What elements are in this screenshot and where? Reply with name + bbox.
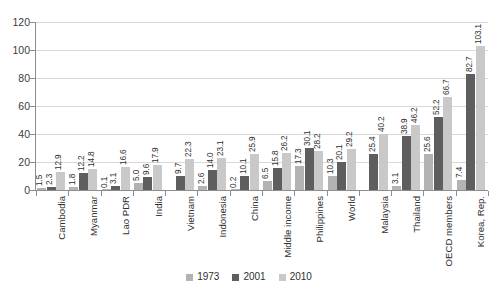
x-axis-category-label: Philippines (315, 196, 325, 242)
bar (134, 183, 143, 190)
bar-group: 0.210.125.9 (230, 22, 262, 190)
data-label: 40.2 (378, 116, 386, 132)
bar (314, 151, 323, 190)
bar (273, 168, 282, 190)
data-label: 103.1 (475, 24, 483, 44)
data-label: 10.3 (327, 158, 335, 174)
data-label: 7.4 (456, 167, 464, 178)
bar (443, 97, 452, 190)
bar-group: 6.515.826.2 (262, 22, 294, 190)
bar (88, 169, 97, 190)
data-label: 38.9 (401, 118, 409, 134)
data-label: 15.8 (272, 150, 280, 166)
bar (56, 172, 65, 190)
data-label: 25.9 (249, 136, 257, 152)
bar-groups: 1.52.312.91.812.214.80.13.116.65.09.617.… (36, 22, 488, 190)
x-axis-category-label: World (347, 196, 357, 221)
data-label: 66.7 (443, 79, 451, 95)
bar (240, 176, 249, 190)
x-axis-category-label: Cambodia (57, 196, 67, 240)
bar (250, 154, 259, 190)
bar (476, 46, 485, 190)
data-label: 26.2 (281, 136, 289, 152)
x-axis-category-label: Middle income (283, 196, 293, 258)
bar-group: 17.330.128.2 (294, 22, 326, 190)
data-label: 6.5 (262, 168, 270, 179)
bar-group: 25.652.266.7 (423, 22, 455, 190)
bar (434, 117, 443, 190)
y-axis-tick-label: 0 (2, 185, 30, 195)
data-label: 1.5 (36, 175, 44, 186)
data-label: 5.0 (133, 170, 141, 181)
bar-group: 10.320.129.2 (327, 22, 359, 190)
legend-item: 2001 (232, 272, 265, 282)
data-label: 25.6 (424, 137, 432, 153)
data-label: 1.8 (69, 174, 77, 185)
bar (369, 154, 378, 190)
bar (153, 165, 162, 190)
x-axis-category-label: Korea, Rep. (476, 196, 486, 247)
x-axis-category-label: China (250, 196, 260, 221)
data-label: 46.2 (411, 108, 419, 124)
data-label: 17.9 (152, 147, 160, 163)
data-label: 16.6 (120, 149, 128, 165)
data-label: 12.2 (78, 155, 86, 171)
legend-item: 1973 (186, 272, 219, 282)
data-label: 10.1 (240, 158, 248, 174)
y-axis-tick-label: 80 (2, 73, 30, 83)
data-label: 29.2 (346, 132, 354, 148)
data-label: 2.6 (198, 173, 206, 184)
bar (263, 181, 272, 190)
bar (217, 158, 226, 190)
bar (411, 125, 420, 190)
bar (466, 74, 475, 190)
x-axis-tick (488, 191, 489, 196)
bar (457, 180, 466, 190)
data-label: 12.9 (55, 154, 63, 170)
bar-group: 7.482.7103.1 (456, 22, 488, 190)
y-axis-tick-label: 40 (2, 129, 30, 139)
legend-swatch-icon (186, 274, 193, 281)
bar-group: 0.13.116.6 (101, 22, 133, 190)
bar (337, 162, 346, 190)
bar-chart: 020406080100120 1.52.312.91.812.214.80.1… (0, 0, 498, 298)
data-label: 9.7 (175, 163, 183, 174)
legend-label: 2010 (290, 272, 312, 282)
data-label: 14.0 (207, 153, 215, 169)
data-label: 3.1 (392, 173, 400, 184)
bar (305, 148, 314, 190)
y-axis-tick-label: 120 (2, 17, 30, 27)
data-label: 82.7 (466, 57, 474, 73)
bar (328, 176, 337, 190)
bar (79, 173, 88, 190)
data-label: 9.6 (143, 163, 151, 174)
bar (208, 170, 217, 190)
data-label: 20.1 (336, 144, 344, 160)
data-label: 52.2 (433, 99, 441, 115)
x-axis-category-label: Myanmar (89, 196, 99, 236)
bar-group: 1.812.214.8 (68, 22, 100, 190)
legend-swatch-icon (279, 274, 286, 281)
x-axis-category-label: Malaysia (380, 196, 390, 234)
data-label: 17.3 (295, 148, 303, 164)
legend-item: 2010 (279, 272, 312, 282)
bar (402, 136, 411, 190)
y-axis-tick-label: 60 (2, 101, 30, 111)
data-label: 0.1 (101, 177, 109, 188)
bar (143, 177, 152, 190)
bar (185, 159, 194, 190)
x-axis-category-label: Lao PDR (121, 196, 131, 235)
data-label: 30.1 (304, 130, 312, 146)
data-label: 14.8 (88, 152, 96, 168)
x-axis-labels: CambodiaMyanmarLao PDRIndiaVietnamIndone… (36, 196, 488, 270)
x-axis-category-label: India (154, 196, 164, 217)
y-axis-tick-label: 100 (2, 45, 30, 55)
bar-group: 5.09.617.9 (133, 22, 165, 190)
legend-label: 2001 (243, 272, 265, 282)
bar-group: 1.52.312.9 (36, 22, 68, 190)
x-axis-category-label: OECD members (444, 196, 454, 266)
bar (379, 134, 388, 190)
data-label: 28.2 (314, 133, 322, 149)
data-label: 25.4 (369, 137, 377, 153)
bar (282, 153, 291, 190)
